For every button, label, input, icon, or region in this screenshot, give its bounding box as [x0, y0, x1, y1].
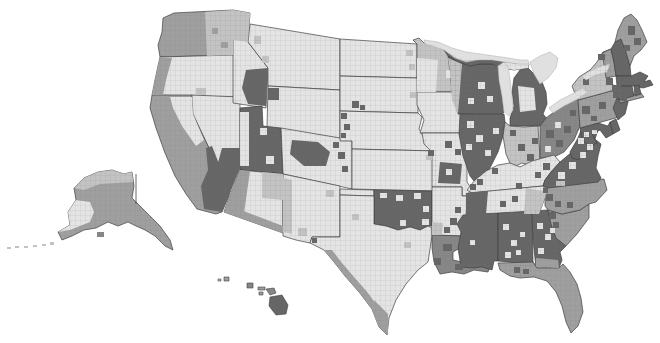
aleutian-islet — [33, 245, 37, 247]
county-texture — [340, 76, 421, 113]
county-texture — [58, 170, 173, 250]
county-texture — [283, 174, 340, 243]
aleutian-islet — [42, 244, 46, 246]
us-choropleth-map — [0, 0, 660, 343]
county-texture — [152, 55, 237, 97]
map-svg — [0, 0, 660, 343]
county-texture — [352, 149, 437, 191]
county-texture-overlay — [58, 10, 653, 335]
county-texture — [158, 10, 233, 57]
county-texture — [259, 292, 263, 295]
aleutian-islet — [7, 247, 11, 249]
county-texture — [340, 189, 374, 196]
county-texture — [258, 287, 265, 290]
aleutian-islet — [24, 246, 28, 248]
county-texture — [218, 279, 221, 281]
county-texture — [457, 213, 498, 270]
aleutian-islet — [15, 246, 19, 248]
county-texture — [498, 262, 583, 333]
county-texture — [224, 277, 229, 281]
county-texture — [374, 190, 432, 230]
county-texture — [247, 283, 253, 288]
county-texture — [340, 39, 417, 78]
kodiak-island — [97, 232, 104, 237]
county-texture — [269, 295, 288, 315]
aleutian-islet — [50, 242, 54, 245]
aleutian-islands — [7, 242, 54, 249]
